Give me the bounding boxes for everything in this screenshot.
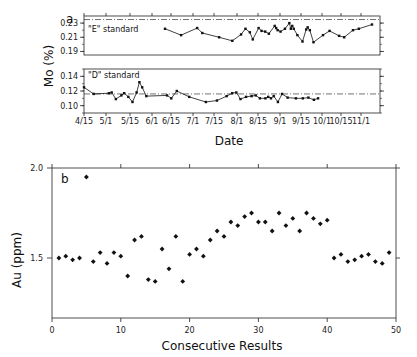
mo-data-point bbox=[274, 25, 276, 27]
mo-data-point bbox=[131, 101, 133, 103]
mo-data-point bbox=[92, 93, 94, 95]
mo-data-point bbox=[111, 91, 113, 93]
au-data-point bbox=[91, 259, 96, 264]
au-data-point bbox=[208, 238, 213, 243]
mo-data-point bbox=[249, 31, 251, 33]
results-x-tick-label: 10 bbox=[116, 326, 126, 335]
au-data-point bbox=[84, 175, 89, 180]
mo-data-point bbox=[240, 33, 242, 35]
results-x-tick-label: 40 bbox=[322, 326, 332, 335]
mo-data-point bbox=[250, 95, 252, 97]
au-data-point bbox=[235, 223, 240, 228]
au-data-point bbox=[194, 247, 199, 252]
mo-data-point bbox=[115, 98, 117, 100]
panel-a: 4/155/15/156/16/157/17/158/18/159/19/151… bbox=[42, 12, 384, 148]
mo-data-point bbox=[245, 96, 247, 98]
date-tick-label: 10/15 bbox=[329, 117, 352, 126]
mo-data-point bbox=[260, 30, 262, 32]
e-standard-plot-frame bbox=[84, 16, 380, 55]
au-data-point bbox=[332, 256, 337, 261]
date-tick-label: 11/1 bbox=[352, 117, 370, 126]
mo-data-point bbox=[83, 86, 85, 88]
date-tick-label: 8/15 bbox=[249, 117, 267, 126]
au-data-point bbox=[249, 211, 254, 216]
au-data-point bbox=[70, 257, 75, 262]
date-tick-label: 10/1 bbox=[313, 117, 331, 126]
au-data-point bbox=[132, 238, 137, 243]
mo-data-point bbox=[276, 29, 278, 31]
au-data-point bbox=[373, 259, 378, 264]
date-tick-label: 7/15 bbox=[205, 117, 223, 126]
date-x-axis-title: Date bbox=[215, 134, 244, 148]
au-data-point bbox=[359, 254, 364, 259]
mo-data-point bbox=[313, 99, 315, 101]
mo-data-point bbox=[225, 95, 227, 97]
au-scatter-points bbox=[56, 175, 391, 284]
mo-data-point bbox=[257, 27, 259, 29]
au-y-tick-label: 2.0 bbox=[30, 164, 43, 173]
mo-data-point bbox=[218, 36, 220, 38]
mo-data-point bbox=[164, 28, 166, 30]
results-x-tick-label: 0 bbox=[49, 326, 54, 335]
mo-data-point bbox=[201, 32, 203, 34]
au-data-point bbox=[187, 252, 192, 257]
mo-data-point bbox=[231, 92, 233, 94]
mo-data-point bbox=[264, 97, 266, 99]
date-tick-label: 8/1 bbox=[231, 117, 244, 126]
au-data-point bbox=[339, 252, 344, 257]
au-data-point bbox=[311, 216, 316, 221]
mo-data-point bbox=[145, 95, 147, 97]
mo-y-axis-title: Mo (%) bbox=[42, 45, 56, 87]
mo-data-point bbox=[264, 30, 266, 32]
mo-y-tick-label: 0.12 bbox=[60, 87, 78, 96]
date-tick-label: 6/15 bbox=[162, 117, 180, 126]
mo-data-point bbox=[170, 97, 172, 99]
date-tick-label: 4/15 bbox=[75, 117, 93, 126]
mo-data-point bbox=[239, 98, 241, 100]
results-x-tick-label: 20 bbox=[185, 326, 195, 335]
mo-data-point bbox=[305, 28, 307, 30]
date-tick-label: 6/1 bbox=[146, 117, 159, 126]
mo-data-point bbox=[279, 30, 281, 32]
panel-b-letter: b bbox=[61, 172, 69, 186]
mo-data-point bbox=[108, 92, 110, 94]
au-data-point bbox=[167, 266, 172, 271]
au-data-point bbox=[352, 257, 357, 262]
au-data-point bbox=[118, 254, 123, 259]
au-data-point bbox=[256, 220, 261, 225]
mo-data-point bbox=[196, 27, 198, 29]
mo-data-point bbox=[270, 97, 272, 99]
mo-data-point bbox=[291, 25, 293, 27]
mo-data-point bbox=[277, 101, 279, 103]
au-data-point bbox=[297, 229, 302, 234]
mo-data-point bbox=[141, 86, 143, 88]
mo-data-point bbox=[284, 28, 286, 30]
date-tick-label: 9/15 bbox=[292, 117, 310, 126]
mo-data-point bbox=[188, 96, 190, 98]
au-data-point bbox=[173, 234, 178, 239]
results-x-tick-label: 50 bbox=[391, 326, 401, 335]
mo-data-point bbox=[166, 94, 168, 96]
au-data-point bbox=[380, 261, 385, 266]
mo-data-point bbox=[231, 40, 233, 42]
mo-data-point bbox=[176, 90, 178, 92]
date-tick-label: 5/1 bbox=[100, 117, 113, 126]
au-data-point bbox=[304, 211, 309, 216]
mo-data-point bbox=[371, 23, 373, 25]
panel-b-ticks: 010203040501.52.0 bbox=[30, 164, 401, 335]
au-data-point bbox=[277, 211, 282, 216]
au-data-point bbox=[345, 259, 350, 264]
date-tick-label: 9/1 bbox=[274, 117, 287, 126]
au-data-point bbox=[98, 250, 103, 255]
mo-data-point bbox=[328, 30, 330, 32]
mo-data-point bbox=[123, 92, 125, 94]
au-data-point bbox=[112, 250, 117, 255]
mo-data-point bbox=[312, 41, 314, 43]
mo-data-point bbox=[306, 26, 308, 28]
results-x-tick-label: 30 bbox=[253, 326, 263, 335]
mo-data-point bbox=[352, 29, 354, 31]
chart-figure: 4/155/15/156/16/157/17/158/18/159/19/151… bbox=[0, 0, 417, 357]
date-tick-label: 5/15 bbox=[121, 117, 139, 126]
au-data-point bbox=[160, 247, 165, 252]
mo-data-point bbox=[275, 27, 277, 29]
